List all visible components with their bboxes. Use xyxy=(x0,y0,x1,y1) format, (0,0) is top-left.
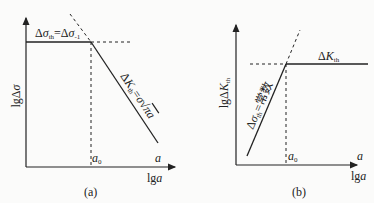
dsigma-dashed-b xyxy=(286,30,300,64)
caption-a: (a) xyxy=(84,185,97,199)
x-label-b: lga xyxy=(351,169,366,183)
dK-line-a xyxy=(91,42,158,143)
y-label-a: lgΔσ xyxy=(9,83,23,107)
y-label-b: lgΔKth xyxy=(217,77,232,108)
a0-label-a: a0 xyxy=(92,151,102,166)
threshold-diagram: Δσth=Δσ-1 lgΔσ ΔKth=σ√πa a0 a lga (a) lg… xyxy=(0,0,374,203)
label-dsigma-th: Δσth=Δσ-1 xyxy=(35,26,81,41)
panel-b: lgΔKth ΔKth Δσth=常数 a0 a lga (b) xyxy=(217,25,368,199)
a-end-label-b: a xyxy=(357,149,363,163)
a-end-label-a: a xyxy=(155,151,161,165)
caption-b: (b) xyxy=(292,185,306,199)
label-dK-th: ΔKth xyxy=(318,49,340,64)
panel-a: Δσth=Δσ-1 lgΔσ ΔKth=σ√πa a0 a lga (a) xyxy=(9,14,175,199)
label-dsigma-const: Δσth=常数 xyxy=(242,79,276,131)
label-dK-a: ΔKth=σ√πa xyxy=(117,70,159,122)
x-label-a: lga xyxy=(147,171,162,185)
a0-label-b: a0 xyxy=(288,149,298,164)
